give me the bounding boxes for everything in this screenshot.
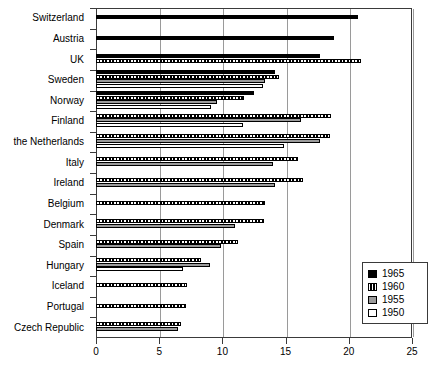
bar-iceland-1960 [96,283,187,287]
y-label-ireland: Ireland [53,177,84,188]
bar-italy-1955 [96,162,273,166]
y-label-spain: Spain [58,239,84,250]
y-label-austria: Austria [53,33,84,44]
bar-group [96,49,412,70]
bar-switzerland-1965 [96,15,358,19]
bar-sweden-1965 [96,70,275,74]
x-tick-label-10: 10 [217,346,228,357]
bar-group [96,235,412,256]
bar-norway-1955 [96,100,217,104]
bar-chart: SwitzerlandAustriaUKSwedenNorwayFinlandt… [0,0,446,367]
bar-denmark-1960 [96,219,264,223]
bar-sweden-1955 [96,79,265,83]
bar-sweden-1950 [96,84,263,88]
chart-legend: 1965196019551950 [362,262,428,324]
x-tick-5 [159,338,160,344]
legend-item-1960[interactable]: 1960 [368,280,422,293]
bar-group [96,29,412,50]
x-tick-15 [286,338,287,344]
x-tick-label-5: 5 [156,346,162,357]
bar-the-netherlands-1955 [96,139,320,143]
legend-swatch-1955 [368,296,377,304]
legend-item-1965[interactable]: 1965 [368,267,422,280]
x-tick-label-0: 0 [93,346,99,357]
bar-norway-1950 [96,105,211,109]
legend-label-1950: 1950 [382,308,404,318]
y-axis-category-labels: SwitzerlandAustriaUKSwedenNorwayFinlandt… [0,8,92,338]
y-label-sweden: Sweden [48,74,84,85]
legend-label-1955: 1955 [382,295,404,305]
y-label-norway: Norway [50,95,84,106]
bar-finland-1955 [96,118,301,122]
y-label-czech-republic: Czech Republic [14,322,84,333]
bar-uk-1960 [96,59,361,63]
bar-hungary-1950 [96,267,183,271]
bar-hungary-1960 [96,258,201,262]
legend-label-1960: 1960 [382,282,404,292]
bar-the-netherlands-1950 [96,144,284,148]
x-tick-label-25: 25 [406,346,417,357]
legend-swatch-1960 [368,283,377,291]
y-label-portugal: Portugal [47,301,84,312]
bar-finland-1960 [96,114,331,118]
y-label-denmark: Denmark [43,219,84,230]
bar-uk-1965 [96,54,320,58]
bar-group [96,194,412,215]
bar-italy-1960 [96,157,298,161]
x-tick-25 [412,338,413,344]
bar-norway-1960 [96,96,244,100]
bar-ireland-1955 [96,183,275,187]
bar-portugal-1960 [96,304,186,308]
bar-the-netherlands-1960 [96,134,330,138]
x-tick-label-15: 15 [280,346,291,357]
y-label-italy: Italy [66,157,84,168]
bar-czech-republic-1955 [96,327,178,331]
y-label-iceland: Iceland [52,280,84,291]
x-tick-20 [349,338,350,344]
bar-group [96,152,412,173]
bar-belgium-1960 [96,201,265,205]
y-label-hungary: Hungary [46,260,84,271]
bar-group [96,111,412,132]
legend-item-1950[interactable]: 1950 [368,306,422,319]
bar-group [96,173,412,194]
y-label-finland: Finland [51,115,84,126]
legend-item-1955[interactable]: 1955 [368,293,422,306]
y-label-switzerland: Switzerland [32,12,84,23]
y-label-belgium: Belgium [48,198,84,209]
x-tick-label-20: 20 [343,346,354,357]
x-tick-0 [96,338,97,344]
bar-denmark-1955 [96,224,235,228]
legend-swatch-1965 [368,270,377,278]
bar-hungary-1955 [96,263,210,267]
y-label-uk: UK [70,54,84,65]
bar-ireland-1960 [96,178,303,182]
x-tick-10 [222,338,223,344]
bar-sweden-1960 [96,75,279,79]
bar-spain-1960 [96,240,238,244]
legend-label-1965: 1965 [382,269,404,279]
bar-group [96,8,412,29]
legend-swatch-1950 [368,309,377,317]
bar-austria-1965 [96,36,334,40]
bar-norway-1965 [96,91,254,95]
bar-spain-1955 [96,244,221,248]
x-axis: 0510152025 [96,338,412,364]
bar-group [96,132,412,153]
bar-czech-republic-1960 [96,322,181,326]
bar-group [96,91,412,112]
bar-group [96,70,412,91]
y-label-the-netherlands: the Netherlands [13,136,84,147]
bar-finland-1950 [96,123,243,127]
bar-group [96,214,412,235]
